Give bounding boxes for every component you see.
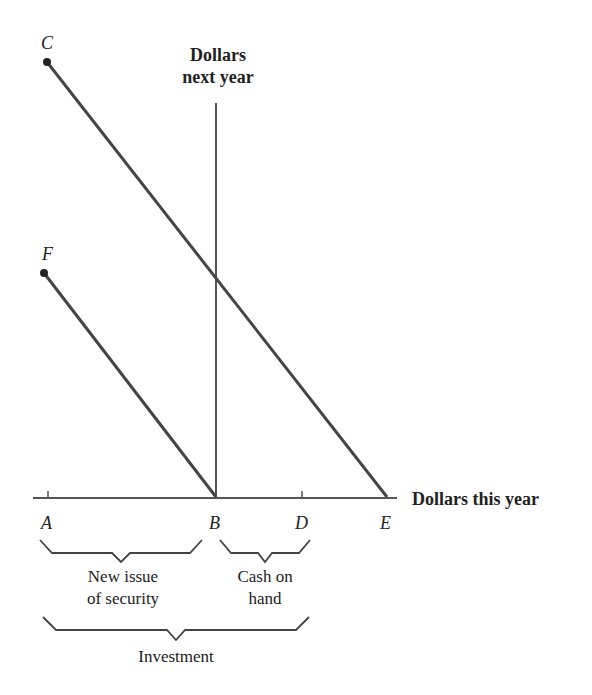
line-fb — [44, 273, 216, 497]
label-c: C — [41, 33, 53, 54]
label-d: D — [295, 513, 308, 534]
cash-line1: Cash on — [220, 566, 310, 588]
cash-label: Cash on hand — [220, 566, 310, 610]
y-axis-label: Dollars next year — [166, 44, 270, 88]
point-c-dot — [43, 58, 51, 66]
x-axis-label: Dollars this year — [412, 488, 539, 510]
investment-label: Investment — [116, 646, 236, 668]
y-axis-label-line1: Dollars — [166, 44, 270, 66]
brace-new-issue — [40, 540, 202, 562]
cash-line2: hand — [220, 588, 310, 610]
new-issue-line2: of security — [60, 588, 186, 610]
label-b: B — [209, 513, 220, 534]
new-issue-line1: New issue — [60, 566, 186, 588]
brace-investment — [43, 617, 309, 640]
label-a: A — [41, 513, 52, 534]
label-e: E — [380, 513, 391, 534]
point-f-dot — [40, 269, 48, 277]
brace-cash — [220, 540, 310, 562]
label-f: F — [42, 244, 53, 265]
new-issue-label: New issue of security — [60, 566, 186, 610]
y-axis-label-line2: next year — [166, 66, 270, 88]
